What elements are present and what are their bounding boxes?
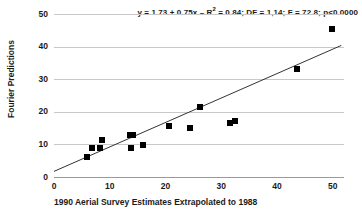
data-point-marker [84,154,90,160]
data-point-marker [89,145,95,151]
data-point-marker [329,26,335,32]
x-tick-label: 10 [98,182,122,191]
x-tick-label: 30 [209,182,233,191]
x-tick-label: 40 [265,182,289,191]
plot-area [54,14,344,177]
data-point-marker [197,104,203,110]
x-tick-label: 0 [42,182,66,191]
data-point-marker [99,137,105,143]
x-axis-line [54,177,344,178]
data-point-marker [140,142,146,148]
y-tick-label: 40 [22,42,48,51]
y-tick-label: 50 [22,10,48,19]
y-axis-title: Fourier Predictions [6,24,16,134]
x-tick-label: 50 [321,182,345,191]
scatter-plot-figure: y = 1.73 + 0.75x – R2 = 0.84; DF = 1,14;… [0,0,362,217]
data-point-marker [166,123,172,129]
y-tick-label: 20 [22,107,48,116]
y-tick-label: 10 [22,140,48,149]
y-tick-label: 0 [22,173,48,182]
data-point-marker [130,132,136,138]
x-axis-title: 1990 Aerial Survey Estimates Extrapolate… [54,197,257,207]
data-point-marker [97,145,103,151]
data-point-marker [187,125,193,131]
x-tick-label: 20 [154,182,178,191]
y-tick-label: 30 [22,75,48,84]
data-point-marker [294,66,300,72]
data-point-marker [232,118,238,124]
regression-fit-line [54,14,344,177]
data-point-marker [128,145,134,151]
